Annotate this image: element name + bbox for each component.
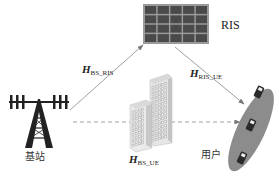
- building-window: [138, 139, 140, 141]
- building-window: [138, 120, 140, 122]
- building-window: [165, 120, 167, 122]
- building-window: [135, 121, 137, 123]
- building-window: [152, 132, 154, 134]
- base-station-label: 基站: [25, 152, 45, 162]
- building-window: [165, 90, 167, 92]
- arrow-bs-ris: [70, 45, 143, 110]
- building-window: [142, 138, 144, 140]
- building-window: [162, 133, 164, 135]
- building-window: [165, 82, 167, 84]
- building-window: [142, 119, 144, 121]
- building-window: [158, 92, 160, 94]
- building-window: [132, 133, 134, 135]
- building-window: [138, 124, 140, 126]
- user-group: [219, 83, 279, 176]
- building-window: [152, 105, 154, 107]
- building-window: [152, 116, 154, 118]
- building-window: [138, 109, 140, 111]
- building-window: [155, 108, 157, 110]
- building-window: [152, 86, 154, 88]
- ris-element: [170, 6, 181, 14]
- building-window: [155, 131, 157, 133]
- ris-element: [170, 25, 181, 33]
- building-window: [165, 124, 167, 126]
- users-label: 用户: [201, 150, 221, 160]
- channel-symbol: H: [129, 153, 138, 165]
- channel-symbol: H: [190, 67, 199, 79]
- building-window: [132, 126, 134, 128]
- building-window: [155, 116, 157, 118]
- channel-subscript: RIS_UE: [199, 73, 223, 81]
- building-window: [155, 89, 157, 91]
- building-window: [165, 86, 167, 88]
- channel-label-bs-ue: HBS_UE: [129, 154, 159, 165]
- building-window: [142, 116, 144, 118]
- building-window: [138, 113, 140, 115]
- ris-element: [158, 15, 169, 23]
- building-window: [158, 111, 160, 113]
- building-window: [132, 130, 134, 132]
- building-window: [158, 130, 160, 132]
- building-window: [142, 142, 144, 144]
- building-window: [142, 112, 144, 114]
- building-window: [155, 85, 157, 87]
- building-window: [135, 125, 137, 127]
- building-window: [152, 94, 154, 96]
- building-window: [142, 131, 144, 133]
- building-window: [158, 99, 160, 101]
- ris-element: [145, 15, 156, 23]
- ris-element: [183, 34, 194, 42]
- building-window: [162, 125, 164, 127]
- building-window: [155, 104, 157, 106]
- building-window: [162, 118, 164, 120]
- building-window: [132, 115, 134, 117]
- building-window: [155, 97, 157, 99]
- ris-element: [145, 25, 156, 33]
- building-window: [135, 140, 137, 142]
- building-window: [162, 137, 164, 139]
- buildings-obstacle-icon: [130, 74, 172, 152]
- building-window: [155, 100, 157, 102]
- ris-element: [183, 6, 194, 14]
- building-window: [138, 131, 140, 133]
- ris-element: [158, 6, 169, 14]
- building-window: [152, 90, 154, 92]
- building-window: [165, 98, 167, 100]
- building-window: [138, 117, 140, 119]
- building-window: [155, 123, 157, 125]
- building-window: [162, 110, 164, 112]
- base-station-tower-icon: [9, 95, 69, 148]
- building-window: [162, 121, 164, 123]
- building-window: [158, 107, 160, 109]
- building-window: [152, 101, 154, 103]
- ris-element: [145, 34, 156, 42]
- building-window: [165, 94, 167, 96]
- building-window: [162, 87, 164, 89]
- ris-element: [158, 25, 169, 33]
- building-window: [155, 93, 157, 95]
- building-window: [158, 134, 160, 136]
- building-window: [152, 120, 154, 122]
- ris-element: [145, 6, 156, 14]
- building-window: [158, 126, 160, 128]
- building-window: [165, 113, 167, 115]
- building-window: [132, 137, 134, 139]
- building-window: [165, 105, 167, 107]
- building-window: [132, 141, 134, 143]
- building-window: [138, 143, 140, 145]
- ris-system-diagram: RIS HBS_RIS HRIS_UE HBS_UE 基站 用户: [0, 0, 279, 181]
- building-window: [152, 135, 154, 137]
- building-window: [132, 111, 134, 113]
- building-window: [132, 118, 134, 120]
- building-window: [132, 122, 134, 124]
- building-window: [162, 83, 164, 85]
- building-window: [165, 136, 167, 138]
- building-window: [142, 134, 144, 136]
- building-window: [162, 91, 164, 93]
- ris-element: [196, 34, 207, 42]
- ris-label: RIS: [221, 19, 240, 31]
- building-window: [155, 112, 157, 114]
- building-window: [162, 95, 164, 97]
- building-window: [158, 88, 160, 90]
- building-window: [162, 129, 164, 131]
